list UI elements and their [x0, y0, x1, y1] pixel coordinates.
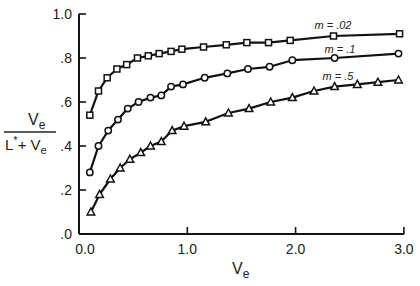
triangle-marker: [147, 142, 155, 149]
circle-marker: [245, 66, 251, 72]
triangle-marker: [225, 109, 233, 116]
square-marker: [244, 40, 250, 46]
square-marker: [87, 112, 93, 118]
y-axis-label: Ve L*+ Ve: [4, 111, 56, 156]
square-marker: [95, 88, 101, 94]
square-marker: [397, 31, 403, 37]
triangle-marker: [180, 122, 188, 129]
x-tick-label: 2.0: [286, 241, 306, 257]
square-marker: [331, 33, 337, 39]
square-marker: [124, 62, 130, 68]
square-marker: [201, 44, 207, 50]
circle-marker: [135, 99, 141, 105]
square-marker: [168, 48, 174, 54]
circle-marker: [105, 127, 111, 133]
y-tick-label: .2: [60, 182, 72, 198]
series-triangle: [87, 76, 402, 215]
y-tick-label: .4: [60, 138, 72, 154]
square-marker: [114, 66, 120, 72]
curve-label: m = .1: [325, 43, 356, 55]
x-tick-label: 1.0: [178, 241, 198, 257]
y-tick-label: .6: [60, 94, 72, 110]
circle-marker: [95, 143, 101, 149]
circle-marker: [201, 75, 207, 81]
triangle-marker: [354, 80, 362, 87]
x-tick-label: 3.0: [394, 241, 414, 257]
square-marker: [145, 53, 151, 59]
triangle-marker: [202, 118, 210, 125]
circle-marker: [331, 55, 337, 61]
y-tick-label: .8: [60, 50, 72, 66]
circle-marker: [266, 64, 272, 70]
triangle-marker: [126, 155, 134, 162]
circle-marker: [168, 83, 174, 89]
square-marker: [134, 55, 140, 61]
circle-marker: [289, 57, 295, 63]
chart: .0.2.4.6.81.00.01.02.03.0 m = .02m = .1m…: [0, 0, 420, 286]
triangle-marker: [374, 78, 382, 85]
curve-labels: m = .02m = .1m = .5: [315, 19, 356, 82]
circle-marker: [158, 92, 164, 98]
y-tick-label: 1.0: [53, 6, 73, 22]
x-label: Ve: [232, 260, 250, 281]
y-tick-label: .0: [60, 226, 72, 242]
triangle-marker: [289, 94, 297, 101]
triangle-marker: [267, 98, 275, 105]
circle-marker: [395, 50, 401, 56]
square-marker: [156, 51, 162, 57]
series-group: [87, 31, 403, 215]
circle-marker: [147, 94, 153, 100]
curve-label: m = .5: [323, 70, 355, 82]
square-marker: [287, 37, 293, 43]
triangle-marker: [310, 87, 318, 94]
x-axis-label: Ve: [232, 260, 250, 281]
circle-marker: [224, 70, 230, 76]
triangle-marker: [395, 76, 403, 83]
y-label-denominator: L*+ Ve: [5, 134, 47, 156]
circle-marker: [125, 105, 131, 111]
triangle-marker: [168, 127, 176, 134]
triangle-marker: [245, 105, 253, 112]
circle-marker: [87, 169, 93, 175]
circle-marker: [180, 81, 186, 87]
square-marker: [104, 75, 110, 81]
square-marker: [223, 42, 229, 48]
triangle-marker: [331, 83, 339, 90]
square-marker: [266, 40, 272, 46]
curve-label: m = .02: [315, 19, 352, 31]
x-tick-label: 0.0: [75, 241, 95, 257]
square-marker: [179, 46, 185, 52]
y-label-numerator: Ve: [28, 111, 46, 132]
circle-marker: [115, 116, 121, 122]
